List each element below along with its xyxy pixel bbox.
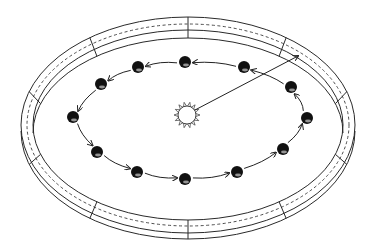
earth-icon: [179, 56, 191, 68]
ring-segment-divider: [90, 38, 97, 57]
planet-highlight: [281, 151, 287, 154]
orbit-arrow: [104, 156, 130, 169]
planet-highlight: [235, 174, 241, 177]
earth-icon: [131, 166, 143, 178]
orbit-arrow: [78, 124, 93, 146]
planet-highlight: [99, 86, 105, 89]
orbit-arrow: [244, 153, 276, 169]
diagram-canvas: [0, 0, 377, 241]
ring-wall: [21, 17, 355, 239]
earth-icon: [285, 81, 297, 93]
ring-segment-divider: [279, 202, 286, 219]
earth-icon: [277, 143, 289, 155]
orbit-arrow: [146, 62, 177, 66]
earth-icon: [132, 61, 144, 73]
planet-highlight: [289, 89, 295, 92]
ring-segment-divider: [279, 38, 286, 57]
orbit-arrow: [145, 173, 177, 178]
planet-highlight: [71, 119, 77, 122]
earth-icon: [91, 146, 103, 158]
planet-highlight: [183, 64, 189, 67]
planet-highlight: [136, 69, 142, 72]
earth-icon: [231, 166, 243, 178]
orbit-arrow: [288, 124, 302, 142]
orbit-arrow: [295, 94, 304, 111]
planet-highlight: [183, 181, 189, 184]
orbit-diagram: [0, 0, 377, 241]
earth-icon: [301, 112, 313, 124]
ring-segment-divider: [90, 202, 97, 219]
earth-icon: [67, 111, 79, 123]
orbit-arrow: [193, 62, 236, 66]
orbit-arrow: [193, 173, 229, 178]
planet-highlight: [135, 174, 141, 177]
earth-icon: [95, 78, 107, 90]
orbit-arrow: [78, 90, 96, 111]
planet-highlight: [95, 154, 101, 157]
planet-highlight: [242, 69, 248, 72]
sun-icon: [174, 102, 200, 127]
sun-core: [178, 106, 196, 124]
orbit-arrow: [108, 70, 130, 80]
planet-highlight: [305, 120, 311, 123]
earth-icon: [238, 61, 250, 73]
earth-icon: [179, 173, 191, 185]
